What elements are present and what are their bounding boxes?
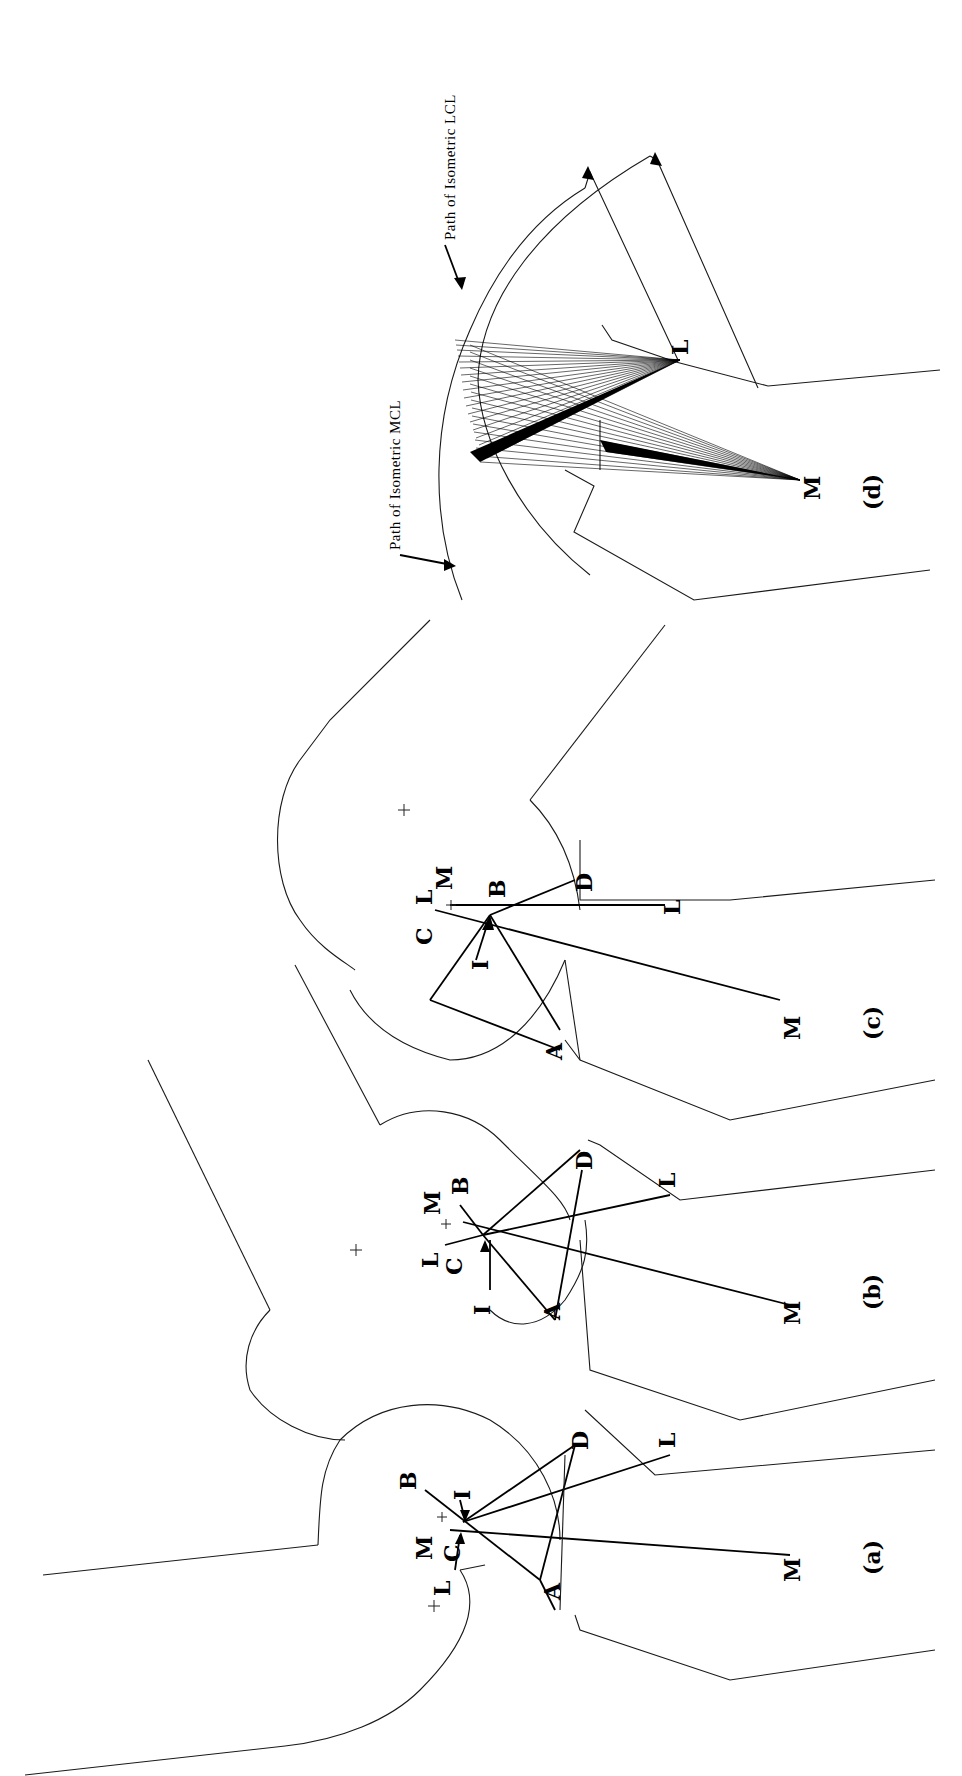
b-tibia-1 <box>588 1140 935 1200</box>
label-L: L <box>667 340 693 355</box>
label-A: A <box>539 1302 565 1321</box>
a-tibia-2 <box>575 1615 935 1680</box>
label-L: L <box>654 1173 680 1188</box>
label-M: M <box>779 1558 805 1582</box>
label-L: L <box>659 900 685 915</box>
panel-d: L M (d) Path of Isometric MCL Path of Is… <box>387 94 940 600</box>
label-B: B <box>395 1471 421 1490</box>
label-C: C <box>411 927 437 945</box>
panel-a: B I M C L A D L M (a) <box>25 1405 935 1775</box>
label-A: A <box>539 1582 565 1601</box>
label-M-top: M <box>411 1536 437 1560</box>
label-D: D <box>567 1431 593 1450</box>
label-M: M <box>799 476 825 500</box>
panel-c: C L M B I A D L M (c) <box>278 620 936 1120</box>
caption-d: (d) <box>859 474 885 510</box>
label-C: C <box>439 1544 465 1562</box>
label-I: I <box>449 1490 475 1500</box>
l-rod-1 <box>585 172 678 360</box>
caption-c: (c) <box>859 1006 885 1040</box>
label-M: M <box>779 1016 805 1040</box>
label-D: D <box>571 873 597 892</box>
label-B: B <box>447 1176 473 1195</box>
lcl-path-label: Path of Isometric LCL <box>442 94 458 240</box>
c-tibia-2 <box>565 1040 935 1120</box>
label-M: M <box>779 1301 805 1325</box>
label-B: B <box>484 879 510 898</box>
label-L-top: L <box>429 1581 455 1596</box>
bone-outline-1 <box>602 325 940 386</box>
label-A: A <box>541 1042 567 1061</box>
label-D: D <box>571 1151 597 1170</box>
label-L-top: L <box>417 1253 443 1268</box>
c-tibia-1 <box>580 840 935 900</box>
panel-b: L M C B I A D L M (b) <box>148 965 935 1440</box>
label-M-top: M <box>419 1191 445 1215</box>
label-I: I <box>469 1305 495 1315</box>
caption-b: (b) <box>859 1274 885 1310</box>
label-L-top: L <box>411 890 437 905</box>
b-tibia-2 <box>580 1240 935 1420</box>
label-C: C <box>441 1257 467 1275</box>
caption-a: (a) <box>859 1540 885 1575</box>
label-I: I <box>467 960 493 970</box>
mcl-fan <box>470 345 800 480</box>
label-L: L <box>654 1433 680 1448</box>
mcl-path-label: Path of Isometric MCL <box>387 400 403 550</box>
knee-linkage-diagram: L M (d) Path of Isometric MCL Path of Is… <box>0 0 962 1776</box>
label-M-top: M <box>431 866 457 890</box>
